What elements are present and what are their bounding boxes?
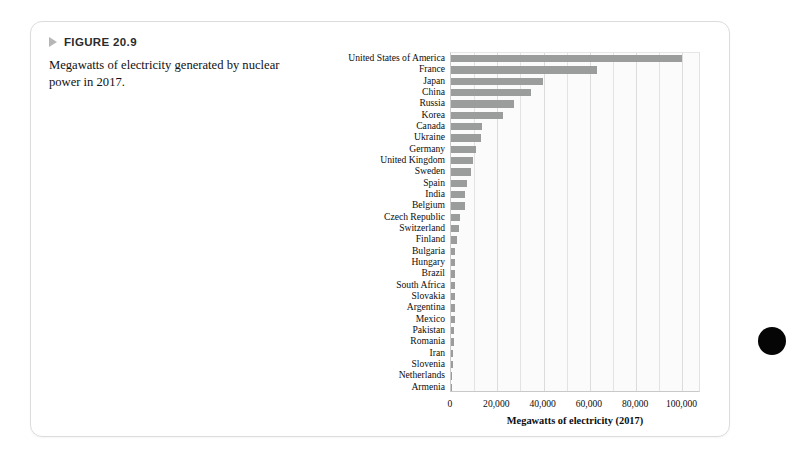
bar [451, 214, 460, 221]
bar [451, 316, 455, 323]
x-tick-label: 100,000 [666, 398, 697, 409]
category-label: Mexico [416, 313, 445, 324]
category-label: Romania [410, 335, 445, 346]
category-label: Brazil [422, 267, 445, 278]
bar [451, 293, 455, 300]
x-tick-label: 0 [448, 398, 453, 409]
category-label: South Africa [396, 279, 445, 290]
gridline-minor [613, 53, 614, 391]
bar [451, 157, 473, 164]
category-label: Japan [423, 75, 445, 86]
figure-heading: FIGURE 20.9 [49, 36, 299, 48]
category-label: Sweden [415, 165, 445, 176]
x-tick-label: 80,000 [622, 398, 648, 409]
plot-wrapper: United States of AmericaFranceJapanChina… [286, 35, 716, 395]
bar [451, 350, 453, 357]
category-axis-labels: United States of AmericaFranceJapanChina… [286, 52, 449, 392]
bar [451, 259, 455, 266]
category-label: Czech Republic [384, 211, 445, 222]
category-label: Pakistan [412, 324, 445, 335]
category-label: Switzerland [399, 222, 445, 233]
category-label: Korea [422, 109, 445, 120]
bar [451, 134, 481, 141]
page-root: FIGURE 20.9 Megawatts of electricity gen… [0, 0, 799, 453]
bar [451, 123, 482, 130]
caption-block: FIGURE 20.9 Megawatts of electricity gen… [49, 36, 299, 90]
category-label: China [422, 86, 445, 97]
category-label: Slovenia [411, 358, 445, 369]
gridline-minor [659, 53, 660, 391]
category-label: Slovakia [411, 290, 445, 301]
bar [451, 202, 465, 209]
figure-number-label: FIGURE 20.9 [64, 36, 137, 48]
triangle-right-icon [49, 37, 57, 47]
x-axis-title: Megawatts of electricity (2017) [450, 415, 700, 426]
category-label: France [419, 63, 445, 74]
category-label: United States of America [348, 52, 445, 63]
bar [451, 191, 465, 198]
bar [451, 236, 457, 243]
category-label: Iran [430, 347, 445, 358]
category-label: India [425, 188, 445, 199]
category-label: Bulgaria [412, 245, 445, 256]
bar [451, 327, 454, 334]
bar [451, 361, 453, 368]
x-tick-label: 40,000 [529, 398, 555, 409]
bar-chart: United States of AmericaFranceJapanChina… [286, 35, 716, 430]
gridline-major [636, 53, 637, 391]
category-label: Finland [416, 233, 445, 244]
bar [451, 146, 476, 153]
bar [451, 78, 543, 85]
page-thumb-circle [758, 327, 786, 355]
category-label: Hungary [411, 256, 445, 267]
bar [451, 100, 514, 107]
bar [451, 270, 455, 277]
category-label: Spain [423, 177, 445, 188]
bar [451, 304, 455, 311]
bar [451, 372, 452, 379]
category-label: United Kingdom [380, 154, 445, 165]
category-label: Canada [416, 120, 445, 131]
gridline-minor [520, 53, 521, 391]
x-tick-label: 60,000 [576, 398, 602, 409]
bar [451, 112, 503, 119]
category-label: Germany [409, 143, 445, 154]
bar [451, 248, 455, 255]
figure-card: FIGURE 20.9 Megawatts of electricity gen… [30, 21, 730, 437]
category-label: Russia [419, 97, 445, 108]
category-label: Argentina [407, 301, 445, 312]
gridline-major [682, 53, 683, 391]
bar [451, 384, 452, 391]
x-tick-label: 20,000 [483, 398, 509, 409]
category-label: Belgium [412, 199, 445, 210]
bar [451, 89, 531, 96]
gridline-major [590, 53, 591, 391]
figure-caption: Megawatts of electricity generated by nu… [49, 57, 299, 90]
category-label: Ukraine [414, 131, 445, 142]
bar [451, 168, 471, 175]
bar [451, 55, 682, 62]
plot-area [450, 52, 700, 392]
bar [451, 180, 467, 187]
bar [451, 282, 455, 289]
gridline-major [544, 53, 545, 391]
bar [451, 66, 597, 73]
category-label: Armenia [411, 381, 445, 392]
bar [451, 338, 454, 345]
bar [451, 225, 459, 232]
category-label: Netherlands [399, 369, 445, 380]
gridline-minor [567, 53, 568, 391]
